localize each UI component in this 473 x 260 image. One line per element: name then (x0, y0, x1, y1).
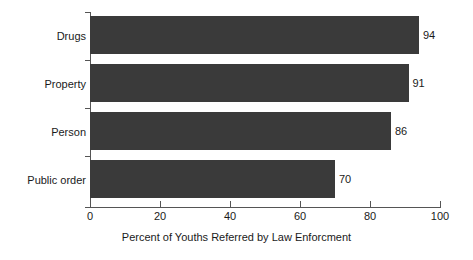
x-axis-tick (300, 201, 301, 208)
bar-property[interactable] (90, 64, 409, 102)
y-axis-label-person: Person (0, 127, 86, 138)
bar-value-public-order: 70 (339, 174, 351, 185)
bar-value-property: 91 (413, 78, 425, 89)
y-axis-label-drugs: Drugs (0, 31, 86, 42)
y-axis-label-public-order: Public order (0, 175, 86, 186)
x-axis-tick-label: 100 (420, 211, 460, 222)
bar-value-person: 86 (395, 126, 407, 137)
bar-drugs[interactable] (90, 16, 419, 54)
x-axis-tick (440, 201, 441, 208)
x-axis-line (90, 207, 441, 208)
y-axis-tick (85, 12, 91, 13)
plot-area: 94 91 86 70 (90, 16, 440, 206)
y-axis-label-property: Property (0, 79, 86, 90)
x-axis-tick-label: 0 (70, 211, 110, 222)
bar-public-order[interactable] (90, 160, 335, 198)
x-axis-tick (160, 201, 161, 208)
x-axis-tick (230, 201, 231, 208)
bar-chart: Drugs Property Person Public order 94 91… (0, 0, 473, 260)
x-axis-tick (90, 201, 91, 208)
bar-value-drugs: 94 (423, 30, 435, 41)
x-axis-tick-label: 80 (350, 211, 390, 222)
x-axis-tick-label: 60 (280, 211, 320, 222)
x-axis-title: Percent of Youths Referred by Law Enforc… (0, 232, 473, 243)
x-axis-tick-label: 20 (140, 211, 180, 222)
x-axis-tick (370, 201, 371, 208)
x-axis-tick-label: 40 (210, 211, 250, 222)
bar-person[interactable] (90, 112, 391, 150)
